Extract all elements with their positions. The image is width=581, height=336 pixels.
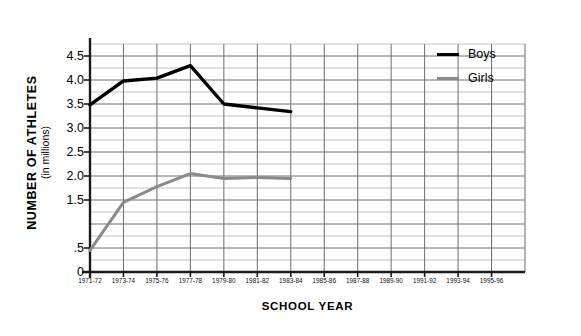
legend-item-boys: Boys	[437, 42, 547, 66]
legend-swatch-boys-icon	[437, 53, 459, 56]
legend-swatch-girls-icon	[437, 77, 459, 80]
legend-label-girls: Girls	[468, 71, 494, 85]
x-tick-label: 1995-96	[465, 277, 519, 284]
x-axis-title: SCHOOL YEAR	[90, 300, 525, 312]
legend-label-boys: Boys	[468, 47, 496, 61]
chart-legend: Boys Girls	[437, 42, 547, 90]
x-tick-label-group: 1971-721973-741975-761977-781979-801981-…	[0, 277, 581, 293]
legend-item-girls: Girls	[437, 66, 547, 90]
chart-figure: NUMBER OF ATHLETES (in millions) 4.54.03…	[0, 0, 581, 336]
axis-ticks	[84, 56, 492, 277]
